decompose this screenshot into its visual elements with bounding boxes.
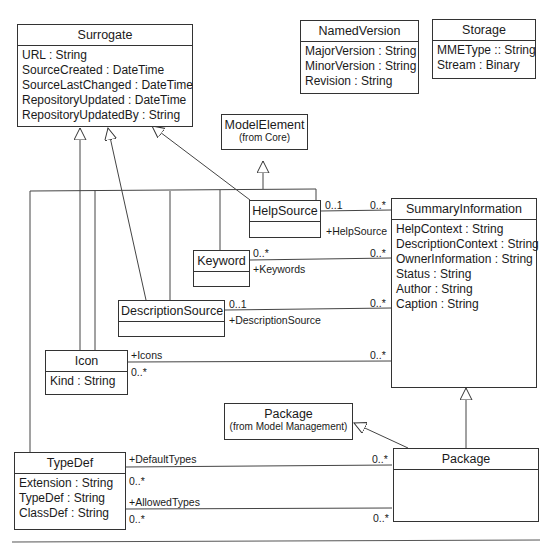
role-label: +Icons: [131, 349, 162, 361]
class-attributes: MajorVersion : String MinorVersion : Str…: [301, 42, 418, 93]
class-attributes: URL : String SourceCreated : DateTime So…: [18, 46, 192, 127]
multiplicity-label: 0..*: [253, 247, 269, 259]
class-name: DescriptionSource: [119, 301, 224, 322]
class-attributes: Kind : String: [46, 372, 127, 393]
multiplicity-label: 0..*: [372, 453, 388, 465]
multiplicity-label: 0..*: [373, 512, 389, 524]
class-package-model-management[interactable]: Package (from Model Management): [224, 403, 353, 440]
attribute: Caption : String: [396, 297, 532, 312]
multiplicity-label: 0..*: [129, 475, 145, 487]
class-name: Package (from Model Management): [225, 404, 352, 436]
class-name: NamedVersion: [301, 21, 418, 42]
attribute: MajorVersion : String: [305, 44, 414, 59]
multiplicity-label: 0..*: [129, 513, 145, 525]
attribute: Status : String: [396, 267, 532, 282]
attribute: OwnerInformation : String: [396, 252, 532, 267]
class-name: TypeDef: [15, 453, 125, 474]
class-attributes: Extension : String TypeDef : String Clas…: [15, 474, 125, 525]
attribute: TypeDef : String: [19, 491, 121, 506]
role-label: +Keywords: [253, 263, 305, 275]
multiplicity-label: 0..*: [370, 199, 386, 211]
class-name: HelpSource: [250, 201, 320, 222]
attribute: Extension : String: [19, 476, 121, 491]
descsource-generalization-line: [108, 128, 146, 300]
attribute: HelpContext : String: [396, 222, 532, 237]
multiplicity-label: 0..1: [325, 199, 343, 211]
attribute: Author : String: [396, 282, 532, 297]
role-label: +HelpSource: [326, 225, 387, 237]
class-name: SummaryInformation: [392, 199, 536, 220]
attribute: RepositoryUpdatedBy : String: [22, 108, 188, 123]
class-description-source[interactable]: DescriptionSource: [118, 300, 225, 337]
attribute: Stream : Binary: [437, 58, 531, 73]
attribute: Kind : String: [50, 374, 123, 389]
attribute: Revision : String: [305, 74, 414, 89]
attribute: ClassDef : String: [19, 506, 121, 521]
class-name: ModelElement (from Core): [222, 115, 307, 147]
class-help-source[interactable]: HelpSource: [249, 200, 321, 238]
class-model-element[interactable]: ModelElement (from Core): [221, 114, 308, 150]
attribute: MMEType :: String: [437, 43, 531, 58]
attribute: DescriptionContext : String: [396, 237, 532, 252]
role-label: +DefaultTypes: [129, 453, 196, 465]
attribute: MinorVersion : String: [305, 59, 414, 74]
class-stereotype: (from Core): [224, 132, 305, 144]
multiplicity-label: 0..*: [370, 247, 386, 259]
multiplicity-label: 0..*: [131, 366, 147, 378]
class-named-version[interactable]: NamedVersion MajorVersion : String Minor…: [300, 20, 419, 94]
class-package[interactable]: Package: [393, 448, 539, 522]
multiplicity-label: 0..*: [370, 349, 386, 361]
attribute: SourceLastChanged : DateTime: [22, 78, 188, 93]
class-name: Surrogate: [18, 25, 192, 46]
class-name: Keyword: [194, 251, 249, 272]
role-label: +AllowedTypes: [129, 496, 200, 508]
class-keyword[interactable]: Keyword: [193, 250, 250, 287]
class-typedef[interactable]: TypeDef Extension : String TypeDef : Str…: [14, 452, 126, 530]
class-surrogate[interactable]: Surrogate URL : String SourceCreated : D…: [17, 24, 193, 127]
class-attributes: MMEType :: String Stream : Binary: [433, 41, 535, 77]
class-stereotype: (from Model Management): [227, 421, 350, 433]
class-name: Icon: [46, 351, 127, 372]
attribute: SourceCreated : DateTime: [22, 63, 188, 78]
attribute: URL : String: [22, 48, 188, 63]
class-storage[interactable]: Storage MMEType :: String Stream : Binar…: [432, 19, 536, 79]
class-icon[interactable]: Icon Kind : String: [45, 350, 128, 395]
class-attributes: HelpContext : String DescriptionContext …: [392, 220, 536, 316]
multiplicity-label: 0..*: [370, 297, 386, 309]
class-name: Package: [394, 449, 538, 470]
role-label: +DescriptionSource: [229, 314, 321, 326]
class-summary-information[interactable]: SummaryInformation HelpContext : String …: [391, 198, 537, 388]
class-name: Storage: [433, 20, 535, 41]
multiplicity-label: 0..1: [229, 298, 247, 310]
attribute: RepositoryUpdated : DateTime: [22, 93, 188, 108]
